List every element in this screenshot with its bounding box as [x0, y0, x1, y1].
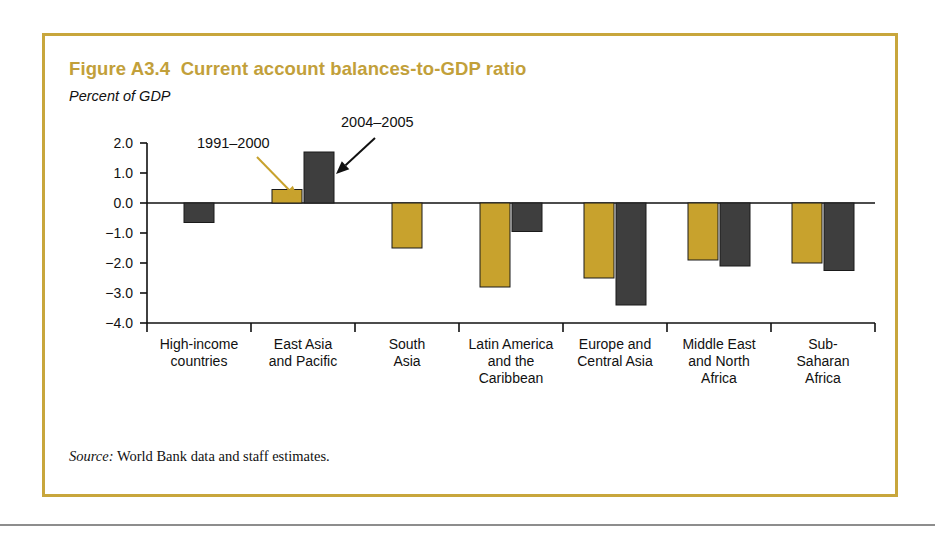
- x-category-label: Sub-SaharanAfrica: [771, 336, 875, 387]
- annotation-label-1991-2000: 1991–2000: [197, 135, 270, 151]
- x-category-label: SouthAsia: [355, 336, 459, 370]
- figure-box: Figure A3.4 Current account balances-to-…: [42, 33, 898, 497]
- x-category-label: Middle Eastand NorthAfrica: [667, 336, 771, 387]
- x-category-label: High-incomecountries: [147, 336, 251, 370]
- y-tick-label: 0.0: [81, 195, 133, 211]
- y-tick-label: 2.0: [81, 135, 133, 151]
- chart-bars: [184, 152, 854, 305]
- x-category-label: East Asiaand Pacific: [251, 336, 355, 370]
- chart-plot-area: 2.01.00.0−1.0−2.0−3.0−4.0 High-incomecou…: [45, 36, 901, 500]
- x-category-label: Europe andCentral Asia: [563, 336, 667, 370]
- source-prefix: Source:: [69, 448, 114, 464]
- x-category-label: Latin Americaand theCaribbean: [459, 336, 563, 387]
- y-tick-label: −3.0: [81, 285, 133, 301]
- source-note: Source: World Bank data and staff estima…: [69, 448, 330, 465]
- page-divider-rule: [0, 524, 935, 526]
- y-tick-label: −2.0: [81, 255, 133, 271]
- source-text: World Bank data and staff estimates.: [114, 448, 330, 464]
- y-tick-label: −1.0: [81, 225, 133, 241]
- y-tick-label: −4.0: [81, 315, 133, 331]
- annotation-label-2004-2005: 2004–2005: [341, 114, 414, 130]
- y-tick-label: 1.0: [81, 165, 133, 181]
